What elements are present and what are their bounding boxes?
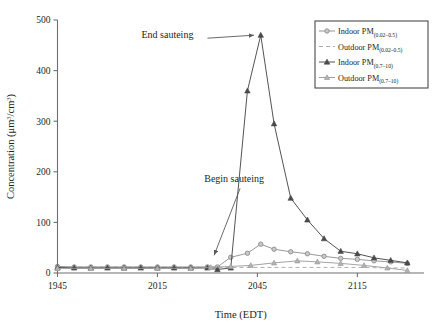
data-point-marker (339, 256, 343, 260)
y-axis-title: Concentration (μm3/cm3) (5, 93, 18, 199)
data-point-marker (325, 29, 329, 33)
x-tick-label: 1945 (48, 281, 67, 291)
x-tick-label: 2045 (248, 281, 267, 291)
data-point-marker (355, 257, 359, 261)
annotation-label: Begin sauteing (204, 173, 264, 184)
data-point-marker (272, 247, 276, 251)
x-axis-title: Time (EDT) (215, 309, 267, 321)
y-tick-label: 400 (36, 66, 51, 76)
data-point-marker (289, 250, 293, 254)
data-point-marker (322, 254, 326, 258)
y-tick-label: 0 (46, 268, 51, 278)
annotation-label: End sauteing (141, 29, 193, 40)
legend: Indoor PM(0.02–0.5)Outdoor PM(0.02–0.5)I… (315, 21, 428, 88)
y-tick-label: 100 (36, 218, 51, 228)
y-tick-label: 500 (36, 15, 51, 25)
line-chart: 01002003004005001945201520452115 End sau… (0, 0, 432, 325)
data-point-marker (305, 252, 309, 256)
y-tick-label: 200 (36, 167, 51, 177)
data-point-marker (259, 242, 263, 246)
y-tick-label: 300 (36, 117, 51, 127)
x-tick-label: 2115 (348, 281, 367, 291)
chart-figure: 01002003004005001945201520452115 End sau… (0, 0, 432, 325)
data-point-marker (245, 251, 249, 255)
x-tick-label: 2015 (148, 281, 167, 291)
